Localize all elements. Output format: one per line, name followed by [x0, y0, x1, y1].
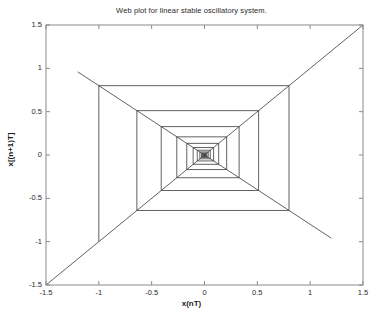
- x-tick-label: -0.5: [145, 288, 158, 297]
- x-tick-label: 0: [202, 288, 206, 297]
- x-tick-label: -1: [95, 288, 102, 297]
- y-tick-label: 1.5: [0, 20, 42, 29]
- x-tick-label: 1: [308, 288, 312, 297]
- x-tick-label: -1.5: [40, 288, 53, 297]
- y-tick-label: -0.5: [0, 193, 42, 202]
- y-tick-label: -1: [0, 237, 42, 246]
- y-tick-label: 1: [0, 63, 42, 72]
- y-tick-label: -1.5: [0, 280, 42, 289]
- x-axis-label: x(nT): [0, 299, 383, 308]
- y-axis-label: x[(n+1)T]: [6, 110, 15, 190]
- x-tick-label: 0.5: [252, 288, 262, 297]
- x-tick-label: 1.5: [358, 288, 368, 297]
- figure-canvas: Web plot for linear stable oscillatory s…: [0, 0, 383, 321]
- plot-area: [0, 0, 383, 321]
